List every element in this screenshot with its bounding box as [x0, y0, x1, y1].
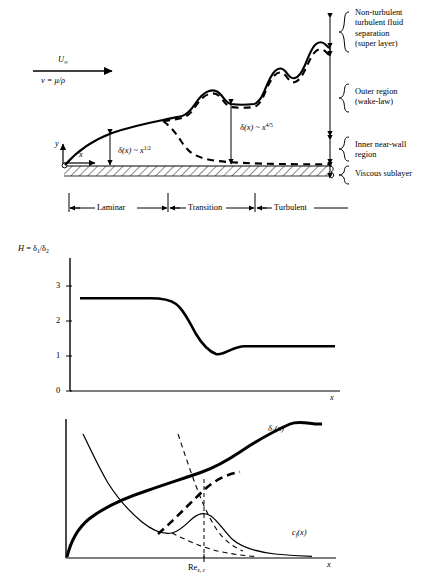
- turbulent-mean-edge-dashed: [163, 49, 330, 121]
- region-label-outer-region: Outer region (wake-law): [355, 87, 398, 108]
- shape-factor-ytick-1: 1: [56, 351, 60, 362]
- brace-super-layer: [339, 12, 349, 52]
- regime-label-transition: Transition: [188, 203, 222, 214]
- brace-outer-region: [339, 84, 349, 112]
- boundary-layer-figure: U∞ ν = μ/ρ y x δ(x) ~ x1/2 δ(x) ~ x4/5 N…: [0, 0, 447, 587]
- shape-factor-chart-graphics: [66, 258, 340, 391]
- regime-label-laminar: Laminar: [97, 203, 125, 214]
- region-label-viscous-sublayer: Viscous sublayer: [355, 169, 412, 179]
- delta-turbulent-label: δ(x) ~ x4/5: [240, 120, 273, 133]
- shape-factor-ytick-3: 3: [56, 281, 60, 292]
- brace-inner-region: [339, 137, 349, 161]
- shape-factor-ytick-2: 2: [56, 316, 60, 327]
- regime-label-turbulent: Turbulent: [274, 203, 307, 214]
- region-label-super-layer: Non-turbulent turbulent fluid separation…: [355, 8, 403, 50]
- cf-delta2-chart-graphics: [66, 419, 336, 562]
- delta-laminar-label: δ(x) ~ x1/2: [118, 143, 151, 156]
- critical-reynolds-label: Rex, c: [188, 563, 205, 575]
- turbulent-branch-dashed: [178, 434, 243, 551]
- wall-hatch: [64, 166, 330, 176]
- delta2-curve-label: δ2(x): [268, 424, 284, 436]
- kinematic-viscosity-label: ν = μ/ρ: [41, 76, 65, 87]
- shape-factor-ytick-0: 0: [56, 386, 60, 397]
- y-axis-label: y: [55, 139, 59, 150]
- bottom-x-axis-label: x: [327, 560, 331, 571]
- H-curve: [80, 298, 335, 354]
- wall-squiggle: [330, 166, 334, 178]
- freestream-velocity-label: U∞: [58, 55, 68, 67]
- cf-curve-label: cf(x): [292, 528, 307, 540]
- delta2-curve: [67, 422, 322, 557]
- x-axis-label: x: [79, 150, 83, 161]
- brace-viscous-sublayer: [339, 166, 349, 184]
- shape-factor-x-axis-label: x: [330, 393, 334, 404]
- shape-factor-y-axis-label: H = δ1/δ2: [18, 244, 49, 256]
- region-label-inner-region: Inner near-wall region: [355, 140, 406, 161]
- laminar-asymptote-dashed: [172, 533, 256, 557]
